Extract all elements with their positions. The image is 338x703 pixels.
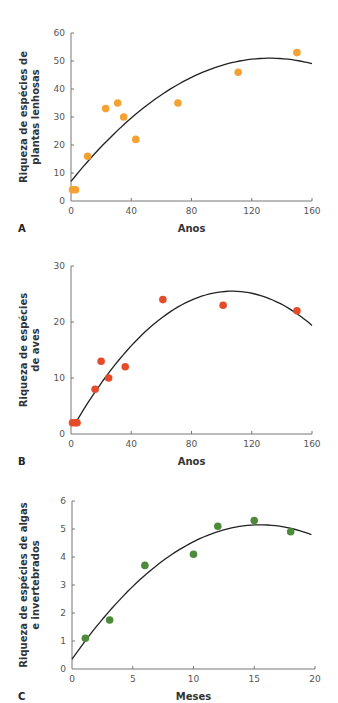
data-point: [84, 152, 92, 160]
y-tick-label: 30: [54, 261, 66, 271]
data-point: [73, 419, 81, 427]
x-tick-label: 20: [309, 674, 321, 684]
x-axis-title: Anos: [178, 223, 206, 234]
y-tick-label: 4: [60, 552, 66, 562]
x-axis-title: Meses: [176, 691, 211, 702]
y-tick-label: 20: [54, 317, 66, 327]
y-tick-label: 10: [54, 373, 66, 383]
data-point: [234, 68, 242, 76]
data-point: [120, 113, 128, 121]
y-axis-title: Riqueza de espécies de: [18, 51, 29, 183]
fit-curve: [76, 291, 313, 423]
x-axis-title: Anos: [178, 456, 206, 467]
data-point: [97, 357, 105, 365]
data-point: [114, 99, 122, 107]
y-tick-label: 0: [59, 196, 65, 206]
y-tick-label: 0: [60, 664, 66, 674]
data-point: [293, 307, 301, 315]
y-axis-title: e invertebrados: [30, 540, 41, 629]
fit-curve: [71, 58, 312, 181]
x-tick-label: 160: [303, 206, 320, 216]
x-tick-label: 15: [249, 674, 260, 684]
data-point: [219, 301, 227, 309]
y-tick-label: 10: [54, 168, 66, 178]
figure-three-panel-scatter: 010203040506004080120160AnosARiqueza de …: [0, 0, 338, 703]
y-axis-title: Riqueza de espécies: [18, 293, 29, 407]
y-tick-label: 1: [60, 636, 66, 646]
y-tick-label: 6: [60, 496, 66, 506]
data-point: [132, 136, 140, 144]
panel-letter: A: [18, 223, 26, 234]
y-axis-title: Riqueza de espécies de algas: [18, 502, 29, 667]
data-point: [102, 105, 110, 113]
data-point: [214, 522, 222, 530]
data-point: [105, 374, 113, 382]
chart-panel-b: 010203004080120160AnosBRiqueza de espéci…: [18, 261, 321, 467]
panel-letter: C: [18, 691, 25, 702]
data-point: [190, 550, 198, 558]
y-tick-label: 20: [54, 140, 66, 150]
y-tick-label: 60: [54, 28, 66, 38]
x-tick-label: 40: [126, 206, 138, 216]
data-point: [91, 385, 99, 393]
x-tick-label: 10: [188, 674, 200, 684]
y-tick-label: 0: [59, 429, 65, 439]
x-tick-label: 120: [243, 439, 260, 449]
y-tick-label: 50: [54, 56, 66, 66]
x-tick-label: 80: [186, 439, 198, 449]
x-tick-label: 40: [126, 439, 138, 449]
data-point: [106, 616, 114, 624]
y-axis-title: plantas lenhosas: [30, 69, 41, 164]
data-point: [250, 517, 258, 525]
chart-panel-c: 012345605101520MesesCRiqueza de espécies…: [18, 496, 321, 702]
data-point: [293, 49, 301, 57]
y-axis-title: de aves: [30, 328, 41, 371]
data-point: [141, 562, 149, 570]
x-tick-label: 120: [243, 206, 260, 216]
data-point: [159, 296, 167, 304]
y-tick-label: 40: [54, 84, 66, 94]
axes: [71, 266, 312, 434]
x-tick-label: 0: [68, 206, 74, 216]
data-point: [82, 634, 90, 642]
x-tick-label: 0: [69, 674, 75, 684]
x-tick-label: 80: [186, 206, 198, 216]
x-tick-label: 0: [68, 439, 74, 449]
panel-letter: B: [18, 456, 26, 467]
chart-panel-a: 010203040506004080120160AnosARiqueza de …: [18, 28, 321, 234]
data-point: [174, 99, 182, 107]
x-tick-label: 160: [303, 439, 320, 449]
y-tick-label: 2: [60, 608, 66, 618]
data-point: [121, 363, 129, 371]
fit-curve: [72, 525, 311, 659]
data-point: [72, 186, 80, 194]
data-point: [287, 528, 295, 536]
y-tick-label: 30: [54, 112, 66, 122]
x-tick-label: 5: [130, 674, 136, 684]
y-tick-label: 3: [60, 580, 66, 590]
y-tick-label: 5: [60, 524, 66, 534]
